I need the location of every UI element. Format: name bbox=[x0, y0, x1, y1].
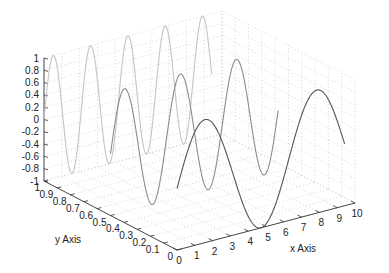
grid-line bbox=[169, 148, 302, 217]
y-axis-label: y Axis bbox=[55, 234, 81, 245]
y-tick-label: 0.6 bbox=[79, 210, 93, 221]
x-tick-label: 3 bbox=[230, 241, 236, 252]
y-tick-label: 0.3 bbox=[119, 230, 133, 241]
y-tick-label: 0.8 bbox=[53, 196, 67, 207]
x-tick-label: 7 bbox=[301, 222, 307, 233]
grid-line bbox=[80, 172, 213, 241]
grid-line bbox=[71, 148, 249, 195]
grid-line bbox=[133, 158, 266, 227]
x-tick-label: 6 bbox=[283, 227, 289, 238]
data-series bbox=[44, 16, 345, 228]
z-tick-label: -1 bbox=[30, 176, 39, 187]
series-line bbox=[44, 16, 212, 173]
series-line bbox=[177, 90, 345, 228]
z-tick-label: 0 bbox=[33, 114, 39, 125]
x-tick-label: 4 bbox=[247, 236, 253, 247]
grid-line bbox=[44, 60, 222, 107]
x-tick-label: 9 bbox=[336, 213, 342, 224]
z-tick-label: -0.6 bbox=[22, 151, 40, 162]
grid-line bbox=[57, 141, 235, 188]
x-tick-label: 8 bbox=[319, 217, 325, 228]
grid-line bbox=[137, 182, 315, 229]
grid-line bbox=[151, 153, 284, 222]
y-tick-label: 0.5 bbox=[93, 217, 107, 228]
x-tick-label: 5 bbox=[265, 232, 271, 243]
z-tick-label: -0.2 bbox=[22, 126, 40, 137]
y-tick-label: 0.9 bbox=[39, 189, 53, 200]
grid-line bbox=[111, 169, 289, 216]
grid-line bbox=[222, 48, 355, 117]
grid-line bbox=[222, 73, 355, 142]
x-axis-label: x Axis bbox=[290, 243, 316, 254]
x-tick-label: 2 bbox=[212, 246, 218, 257]
3d-line-chart: 01234567891000.10.20.30.40.50.60.70.80.9… bbox=[0, 0, 389, 273]
z-tick-label: 1 bbox=[33, 53, 39, 64]
z-tick-label: 0.4 bbox=[25, 89, 39, 100]
x-tick-label: 10 bbox=[351, 208, 363, 219]
y-tick-label: 0.4 bbox=[106, 223, 120, 234]
z-tick-label: 0.8 bbox=[25, 65, 39, 76]
grid-line bbox=[222, 23, 355, 92]
grid-line bbox=[97, 162, 275, 209]
grid-line bbox=[222, 122, 355, 191]
y-tick-label: 0.1 bbox=[146, 244, 160, 255]
grid-line bbox=[44, 23, 222, 70]
z-tick-label: 0.6 bbox=[25, 77, 39, 88]
y-tick-label: 0 bbox=[167, 251, 173, 262]
z-tick-label: -0.8 bbox=[22, 163, 40, 174]
y-tick-label: 0.7 bbox=[66, 203, 80, 214]
z-tick-label: 0.2 bbox=[25, 102, 39, 113]
grid-line bbox=[222, 97, 355, 166]
x-tick-label: 1 bbox=[194, 250, 200, 261]
y-tick-label: 0.2 bbox=[132, 237, 146, 248]
x-tick-label: 0 bbox=[176, 255, 182, 266]
z-tick-label: -0.4 bbox=[22, 139, 40, 150]
